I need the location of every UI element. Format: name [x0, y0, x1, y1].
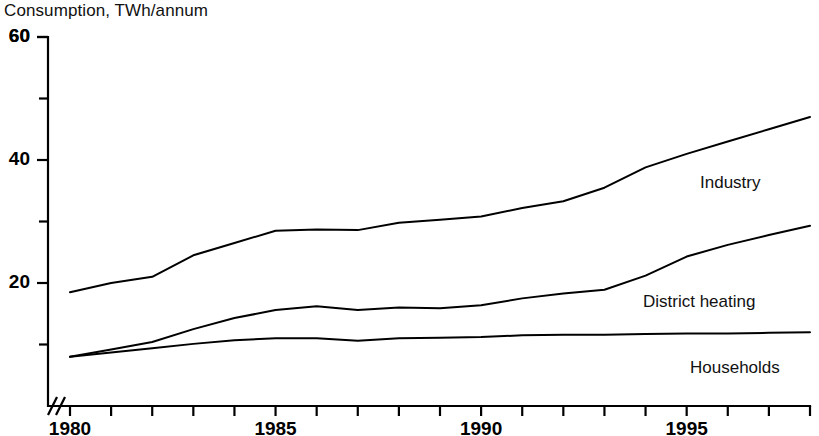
series-line-industry: [70, 117, 810, 292]
chart-series-lines: [70, 117, 810, 357]
series-label-households: Households: [690, 358, 780, 378]
x-axis-tick-label: 1980: [30, 418, 110, 436]
x-axis-tick-label: 1990: [441, 418, 521, 436]
y-axis-tick-label: 60: [0, 25, 30, 47]
x-axis-tick-label: 1985: [236, 418, 316, 436]
y-axis-tick-label: 40: [0, 148, 30, 170]
chart-container: Consumption, TWh/annum 20406060 19801985…: [0, 0, 819, 436]
y-axis-tick-label: 20: [0, 271, 30, 293]
series-label-district-heating: District heating: [643, 292, 755, 312]
axis-lines: [48, 37, 810, 406]
series-line-households: [70, 332, 810, 357]
x-axis-tick-label: 1995: [647, 418, 727, 436]
series-label-industry: Industry: [700, 173, 760, 193]
